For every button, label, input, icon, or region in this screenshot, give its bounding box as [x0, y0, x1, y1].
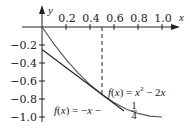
y-tick-label: −0.6: [10, 75, 37, 88]
y-tick-label: −0.2: [10, 39, 37, 52]
x-tick-label: 0.4: [82, 12, 100, 25]
y-ticks: −0.2 −0.4 −0.6 −0.8 −1.0: [10, 39, 45, 124]
y-axis-label: y: [47, 4, 53, 16]
y-tick-label: −0.8: [10, 93, 37, 106]
y-axis-arrow-icon: [39, 5, 45, 14]
tangent-line: [42, 50, 124, 112]
x-axis-arrow-icon: [171, 24, 180, 30]
x-tick-label: 1.0: [154, 12, 172, 25]
tangent-fraction: 1 4: [131, 99, 137, 121]
x-tick-label: 0.8: [130, 12, 148, 25]
y-tick-label: −0.4: [10, 57, 37, 70]
x-tick-label: 0.6: [106, 12, 124, 25]
parabola-label: f(x) = x2 − 2x: [108, 85, 166, 99]
x-tick-label: 0.2: [58, 12, 76, 25]
x-axis-label: x: [178, 11, 184, 23]
function-graph: x y 0.2 0.4 0.6 0.8 1.0 −0.2 −0.4 −0.6 −…: [0, 0, 190, 129]
fraction-denominator: 4: [131, 109, 137, 121]
tangent-label: f(x) = −x −: [54, 104, 101, 117]
y-tick-label: −1.0: [10, 111, 37, 124]
